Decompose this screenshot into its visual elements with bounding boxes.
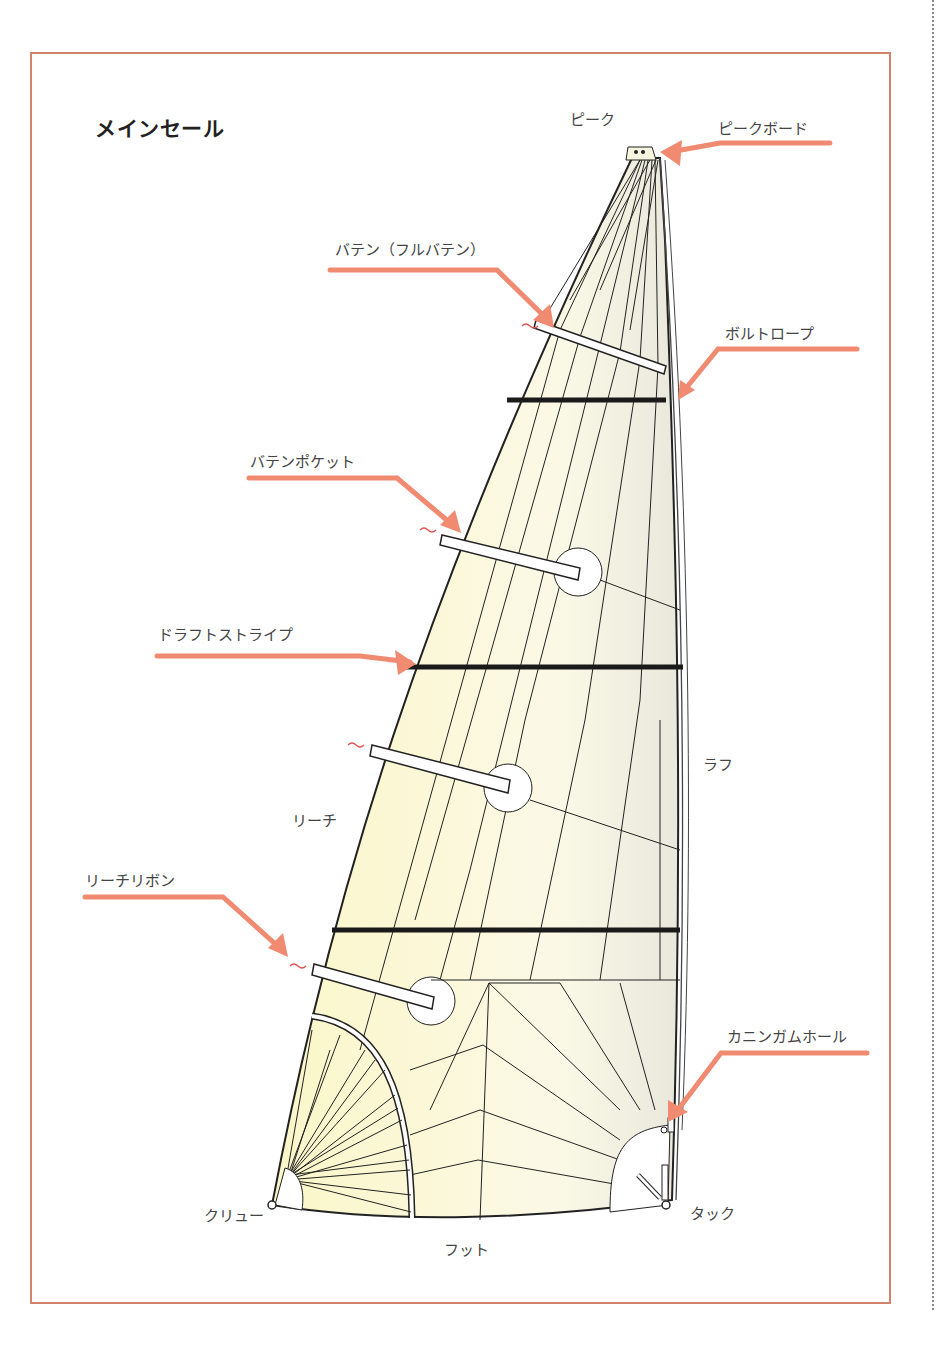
arrow-peak-board <box>670 143 830 152</box>
arrow-bolt-rope <box>682 349 857 393</box>
label-luff: ラフ <box>703 753 733 774</box>
sail-body <box>272 158 678 1217</box>
label-batten-full: バテン（フルバテン） <box>335 238 485 259</box>
arrow-cunningham <box>674 1053 867 1115</box>
label-leech: リーチ <box>292 809 337 830</box>
label-tack: タック <box>690 1202 735 1223</box>
clew-ring <box>268 1201 276 1209</box>
label-cunningham-hole: カニンガムホール <box>727 1025 847 1046</box>
label-bolt-rope: ボルトロープ <box>725 322 814 343</box>
arrow-batten-full <box>330 270 548 320</box>
arrow-leech-ribbon <box>85 897 282 950</box>
label-foot: フット <box>444 1238 489 1259</box>
label-batten-pocket: バテンポケット <box>250 450 355 471</box>
label-clew: クリュー <box>204 1204 264 1225</box>
label-peak: ピーク <box>570 108 615 129</box>
arrow-draft-stripe <box>157 656 410 662</box>
peak-board <box>626 147 656 160</box>
arrow-batten-pocket <box>249 478 455 527</box>
label-peak-board: ピークボード <box>718 117 808 138</box>
mainsail-diagram <box>0 0 938 1365</box>
label-draft-stripe: ドラフトストライプ <box>158 623 293 644</box>
label-leech-ribbon: リーチリボン <box>85 869 175 890</box>
cunningham-hole-ring <box>661 1127 667 1133</box>
tack-ring <box>662 1201 670 1209</box>
